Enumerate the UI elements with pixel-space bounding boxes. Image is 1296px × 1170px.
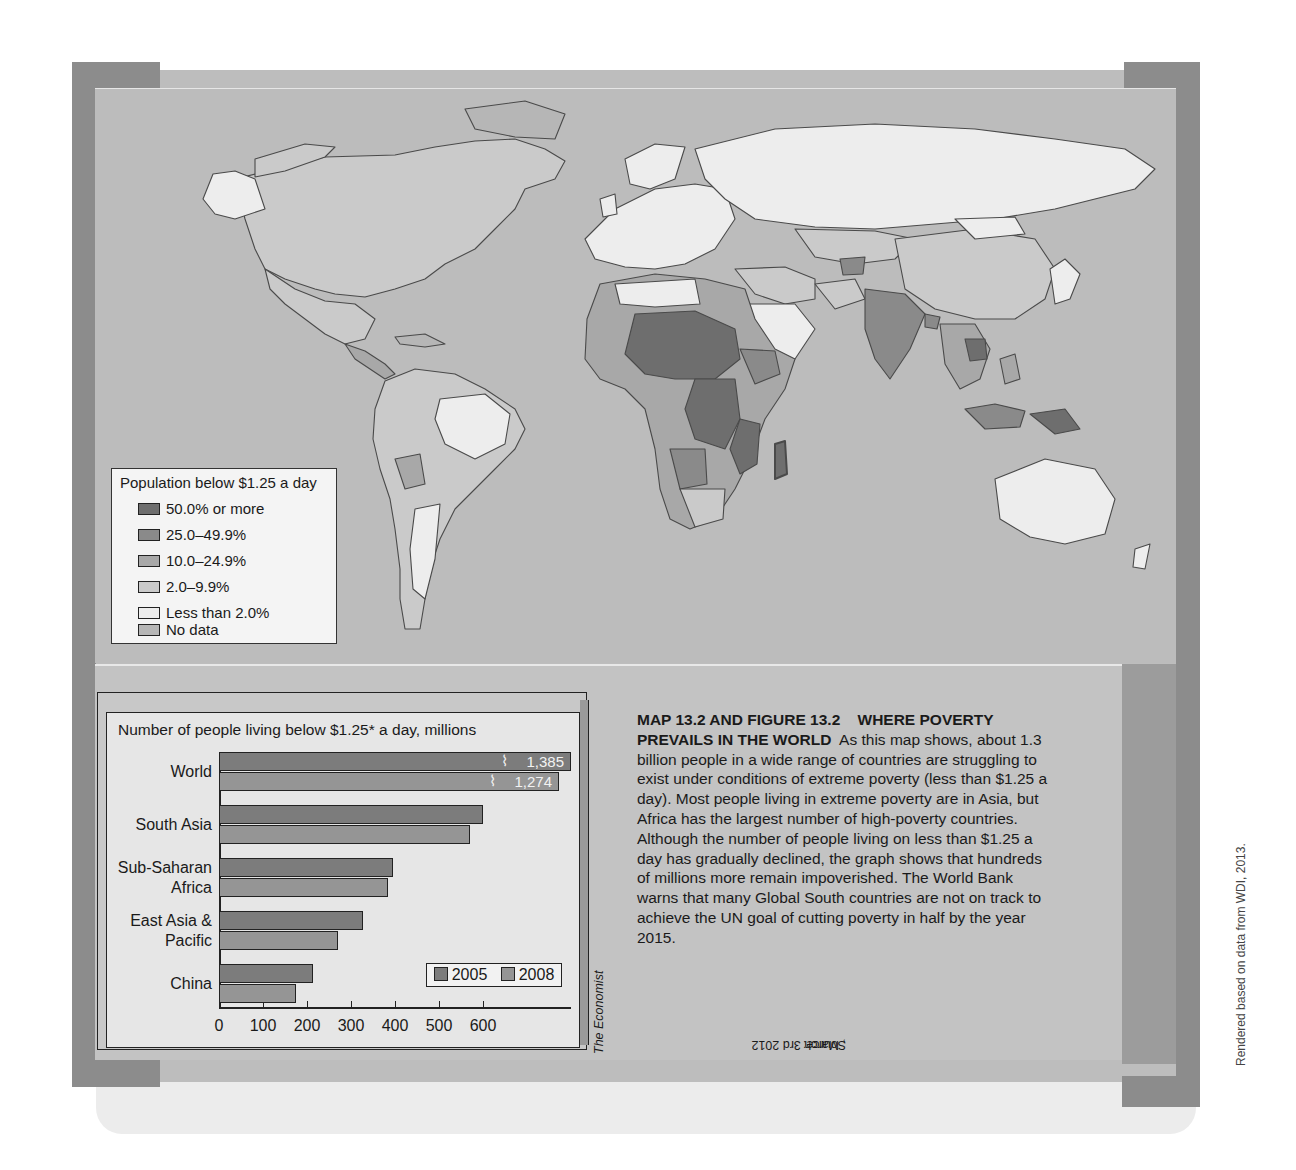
afghanistan-pakistan [815,279,865,309]
x-tick [307,1001,308,1008]
legend-item-50-plus: 50.0% or more [138,500,264,517]
bar-2008 [219,931,338,950]
bar-2005 [219,911,363,930]
category-label: World [102,762,212,782]
x-tick [351,1001,352,1008]
bar-2005 [219,805,483,824]
category-label: South Asia [102,815,212,835]
figure-caption: MAP 13.2 AND FIGURE 13.2 WHERE POVERTY P… [637,710,1057,948]
source-publication: The Economist [592,971,606,1054]
world-poverty-map: Population below $1.25 a day 50.0% or mo… [95,88,1176,663]
indonesia [965,404,1025,429]
legend-swatch [138,529,160,541]
legend-label: 10.0–24.9% [166,552,246,569]
bar-2005 [219,964,313,983]
chart-legend-item-2005: 2005 [434,966,488,984]
frame-corner-bottom-left [72,1058,160,1087]
bar-2008 [219,984,296,1003]
legend-label: 50.0% or more [166,500,264,517]
tajikistan [840,257,865,275]
legend-swatch [138,555,160,567]
chart-legend-item-2008: 2008 [501,966,555,984]
category-label: East Asia &Pacific [102,911,212,951]
caribbean [395,334,445,347]
map-legend: Population below $1.25 a day 50.0% or mo… [111,468,337,644]
caption-body: As this map shows, about 1.3 billion peo… [637,731,1047,946]
argentina [410,504,440,599]
frame-corner-bottom-right [1122,1076,1200,1107]
legend-swatch [138,581,160,593]
x-tick [439,1001,440,1008]
frame-bar-left [72,62,96,1087]
bar-2008: 1,274⌇ [219,772,559,791]
bar-chart-3d-side [580,700,589,1045]
legend-item-25-49: 25.0–49.9% [138,526,246,543]
legend-label: Less than 2.0% [166,604,269,621]
legend-label: No data [166,621,219,638]
bar-value-label: 1,274 [514,773,552,790]
frame-bar-right [1176,62,1200,1107]
bar-2008 [219,825,470,844]
axis-break-icon: ⌇ [501,752,508,769]
legend-item-2-9: 2.0–9.9% [138,578,229,595]
bar-2005 [219,858,393,877]
category-label: China [102,974,212,994]
legend-swatch [138,624,160,636]
x-tick [395,1001,396,1008]
x-tick [483,1001,484,1008]
legend-item-no-data: No data [138,621,219,638]
data-credit: Rendered based on data from WDI, 2013. [1230,800,1250,1070]
category-label: Sub-SaharanAfrica [102,858,212,898]
x-tick-label: 600 [470,1017,497,1035]
x-tick-label: 400 [382,1017,409,1035]
legend-item-less-2: Less than 2.0% [138,604,269,621]
philippines [1000,354,1020,384]
x-tick-label: 200 [294,1017,321,1035]
legend-label: 25.0–49.9% [166,526,246,543]
bar-value-label: 1,385 [526,753,564,770]
legend-swatch [138,503,160,515]
x-tick-label: 500 [426,1017,453,1035]
chart-legend: 2005 2008 [426,963,562,987]
legend-swatch-2005 [434,967,448,981]
papua-new-guinea [1030,409,1080,434]
bangladesh [925,314,940,329]
x-tick-label: 0 [215,1017,224,1035]
legend-label: 2.0–9.9% [166,578,229,595]
central-america [345,344,395,379]
legend-label-2005: 2005 [452,966,488,983]
legend-item-10-24: 10.0–24.9% [138,552,246,569]
scandinavia [625,144,685,189]
x-tick-label: 100 [250,1017,277,1035]
bar-2008 [219,878,388,897]
new-zealand [1133,544,1150,569]
chart-title: Number of people living below $1.25* a d… [118,721,476,739]
bar-2005: 1,385⌇ [219,752,571,771]
map-legend-title: Population below $1.25 a day [120,474,317,491]
china [895,229,1055,319]
source-date: , March 3rd 2012 [752,1038,847,1052]
legend-label-2008: 2008 [519,966,555,983]
lower-right-strip [1122,664,1176,1064]
chart-plot: 0100200300400500600World1,385⌇1,274⌇Sout… [0,0,1,1]
madagascar [775,441,787,479]
chart-source: Source: The Economist, March 3rd 2012 [590,800,610,1060]
x-tick-label: 300 [338,1017,365,1035]
north-africa [615,279,700,307]
axis-break-icon: ⌇ [489,772,496,789]
legend-swatch [138,607,160,619]
uk [600,194,617,217]
japan [1050,259,1080,304]
credit-text: Rendered based on data from WDI, 2013. [1234,843,1248,1066]
russia [695,124,1155,229]
greenland [465,101,565,139]
india [865,289,925,379]
australia [995,459,1115,544]
legend-swatch-2008 [501,967,515,981]
